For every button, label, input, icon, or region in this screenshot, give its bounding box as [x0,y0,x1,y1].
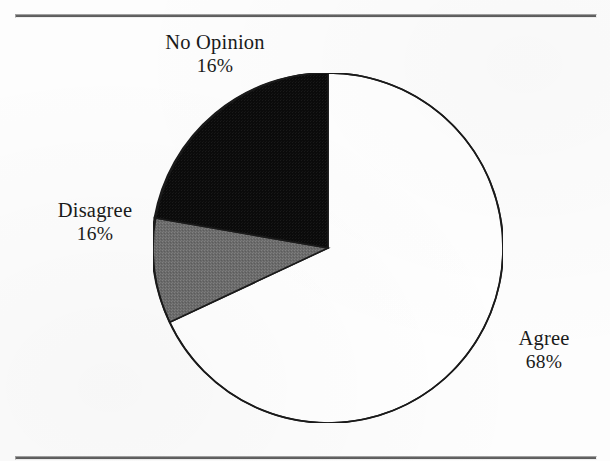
pie-label-agree-value: 68% [498,351,590,374]
pie-label-no-opinion-value: 16% [142,55,288,78]
pie-label-disagree-name: Disagree [27,199,163,223]
figure-top-rule [15,14,597,18]
pie-svg [153,73,503,423]
pie-label-no-opinion: No Opinion 16% [142,31,288,77]
pie-chart-figure: No Opinion 16% Disagree 16% Agree 68% [0,0,610,461]
pie-label-disagree-value: 16% [27,223,163,246]
pie-label-disagree: Disagree 16% [27,199,163,245]
pie-label-agree: Agree 68% [498,327,590,373]
pie-label-no-opinion-name: No Opinion [142,31,288,55]
pie-label-agree-name: Agree [498,327,590,351]
figure-bottom-rule [15,456,597,460]
pie-slice-no-opinion [154,73,328,248]
pie-chart-graphic [153,73,503,423]
